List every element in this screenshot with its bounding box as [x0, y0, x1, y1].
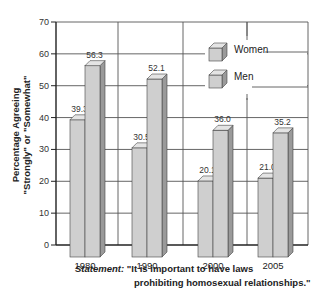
bar-side — [288, 128, 293, 257]
y-axis-label: Percentage Agreeing"Strongly" or "Somewh… — [10, 76, 32, 195]
bar-men — [273, 133, 288, 257]
y-tick-label: 10 — [39, 208, 49, 218]
value-label: 52.1 — [148, 63, 165, 73]
value-label: 35.2 — [274, 117, 291, 127]
legend: WomenMen — [205, 22, 308, 100]
y-tick-label: 40 — [39, 113, 49, 123]
x-category-label: 2005 — [262, 260, 283, 271]
statement-line-1: "It is important to have laws — [127, 263, 253, 274]
bar-men — [85, 66, 100, 257]
bar-chart: 39.356.330.552.120.136.021.035.2 0102030… — [0, 0, 323, 297]
y-tick-label: 50 — [39, 81, 49, 91]
bar-men — [147, 79, 162, 257]
value-label: 56.3 — [86, 50, 103, 60]
bar-women — [70, 120, 85, 257]
y-tick-label: 70 — [39, 17, 49, 27]
bar-group-2000: 20.136.0 — [198, 114, 233, 257]
statement-lead: Statement: — [75, 263, 124, 274]
bar-men — [213, 130, 228, 257]
bar-side — [228, 125, 233, 257]
bar-group-1980: 39.356.3 — [70, 50, 105, 257]
y-tick-label: 20 — [39, 176, 49, 186]
statement-annotation-line-2: prohibiting homosexual relationships." — [134, 277, 311, 288]
statement-annotation: Statement: "It is important to have laws — [75, 263, 253, 274]
bar-group-2005: 21.035.2 — [258, 117, 293, 257]
y-tick-label: 60 — [39, 49, 49, 59]
y-axis-ticks: 010203040506070 — [39, 17, 56, 250]
y-axis-title: Percentage Agreeing"Strongly" or "Somewh… — [10, 76, 32, 195]
y-tick-label: 0 — [44, 240, 49, 250]
statement-line-2: prohibiting homosexual relationships." — [134, 277, 311, 288]
bar-side — [100, 61, 105, 257]
value-label: 36.0 — [214, 114, 231, 124]
legend-label: Men — [234, 71, 253, 82]
bar-side — [162, 74, 167, 257]
bar-group-1990: 30.552.1 — [132, 63, 167, 257]
bar-women — [132, 148, 147, 257]
legend-swatch-icon — [209, 48, 222, 61]
bar-women — [198, 181, 213, 257]
y-tick-label: 30 — [39, 144, 49, 154]
legend-label: Women — [234, 44, 268, 55]
legend-swatch-icon — [209, 75, 222, 88]
bar-women — [258, 178, 273, 257]
